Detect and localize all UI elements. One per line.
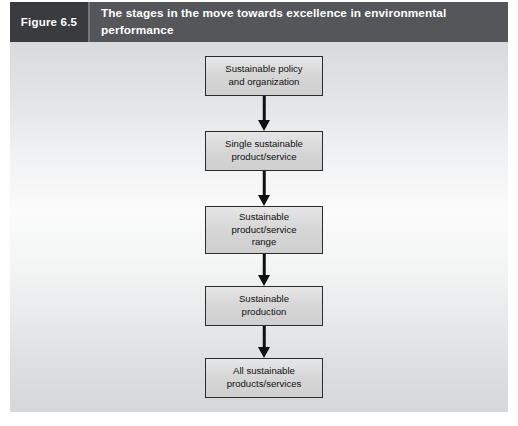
arrow-head-icon bbox=[258, 347, 270, 358]
flow-node-sustainable-policy: Sustainable policyand organization bbox=[205, 56, 323, 96]
flow-node-label: Sustainableproduction bbox=[235, 293, 293, 319]
flow-node-single-sustainable-product: Single sustainableproduct/service bbox=[205, 131, 323, 171]
flow-node-label: Sustainable policyand organization bbox=[221, 63, 306, 89]
flow-arrow-4 bbox=[257, 326, 271, 358]
flow-arrow-1 bbox=[257, 96, 271, 131]
arrow-stem bbox=[263, 326, 266, 347]
arrow-stem bbox=[263, 96, 266, 120]
figure-number-label: Figure 6.5 bbox=[21, 16, 77, 28]
arrow-head-icon bbox=[258, 195, 270, 206]
flow-node-label: Single sustainableproduct/service bbox=[221, 138, 307, 164]
flow-node-label: All sustainableproducts/services bbox=[223, 365, 306, 391]
figure-title-block: The stages in the move towards excellenc… bbox=[88, 2, 508, 42]
figure-header: Figure 6.5 The stages in the move toward… bbox=[10, 2, 508, 42]
arrow-stem bbox=[263, 254, 266, 275]
arrow-stem bbox=[263, 171, 266, 195]
flow-node-sustainable-production: Sustainableproduction bbox=[205, 286, 323, 326]
flow-arrow-3 bbox=[257, 254, 271, 286]
figure-container: Figure 6.5 The stages in the move toward… bbox=[0, 0, 518, 426]
flow-node-all-sustainable-products: All sustainableproducts/services bbox=[205, 358, 323, 398]
arrow-head-icon bbox=[258, 120, 270, 131]
figure-title-text: The stages in the move towards excellenc… bbox=[101, 5, 500, 39]
figure-number-block: Figure 6.5 bbox=[10, 2, 88, 42]
flow-node-sustainable-product-range: Sustainableproduct/servicerange bbox=[205, 206, 323, 254]
flowchart: Sustainable policyand organization Singl… bbox=[200, 42, 328, 412]
flow-node-label: Sustainableproduct/servicerange bbox=[227, 211, 300, 249]
flow-arrow-2 bbox=[257, 171, 271, 206]
arrow-head-icon bbox=[258, 275, 270, 286]
figure-body: Sustainable policyand organization Singl… bbox=[10, 42, 508, 412]
